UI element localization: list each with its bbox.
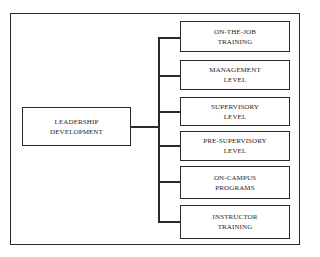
- branch-6: [158, 221, 180, 223]
- node-line2: TRAINING: [213, 222, 258, 232]
- node-line1: SUPERVISORY: [211, 102, 259, 112]
- node-line1: MANAGEMENT: [209, 65, 261, 75]
- node-on-campus-programs: ON-CAMPUSPROGRAMS: [180, 166, 290, 199]
- root-connector: [131, 126, 159, 128]
- node-line1: PRE-SUPERVISORY: [203, 136, 267, 146]
- branch-4: [158, 145, 180, 147]
- node-line2: TRAINING: [214, 37, 256, 47]
- root-node-line1: LEADERSHIP: [50, 117, 103, 127]
- node-supervisory-level: SUPERVISORYLEVEL: [180, 97, 290, 126]
- root-node-leadership-development: LEADERSHIP DEVELOPMENT: [22, 107, 131, 146]
- node-line1: ON-THE-JOB: [214, 27, 256, 37]
- node-line2: PROGRAMS: [214, 183, 256, 193]
- node-management-level: MANAGEMENTLEVEL: [180, 60, 290, 90]
- node-on-the-job-training: ON-THE-JOBTRAINING: [180, 21, 290, 52]
- branch-3: [158, 111, 180, 113]
- node-line1: INSTRUCTOR: [213, 212, 258, 222]
- branch-1: [158, 37, 180, 39]
- root-node-line2: DEVELOPMENT: [50, 127, 103, 137]
- node-line2: LEVEL: [209, 75, 261, 85]
- node-line1: ON-CAMPUS: [214, 173, 256, 183]
- node-pre-supervisory-level: PRE-SUPERVISORYLEVEL: [180, 131, 290, 161]
- trunk-line: [158, 37, 160, 222]
- node-line2: LEVEL: [203, 146, 267, 156]
- node-line2: LEVEL: [211, 112, 259, 122]
- branch-5: [158, 181, 180, 183]
- branch-2: [158, 75, 180, 77]
- node-instructor-training: INSTRUCTORTRAINING: [180, 205, 290, 239]
